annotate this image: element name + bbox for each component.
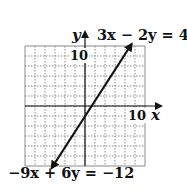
equation-label-top: 3x − 2y = 4 — [97, 26, 187, 43]
equation-label-bottom: −9x + 6y = −12 — [8, 164, 134, 181]
x-tick-label-10: 10 — [127, 108, 147, 123]
y-tick-label-10: 10 — [69, 48, 89, 63]
y-axis-label: y — [72, 26, 81, 44]
x-axis-label: x — [151, 106, 160, 124]
